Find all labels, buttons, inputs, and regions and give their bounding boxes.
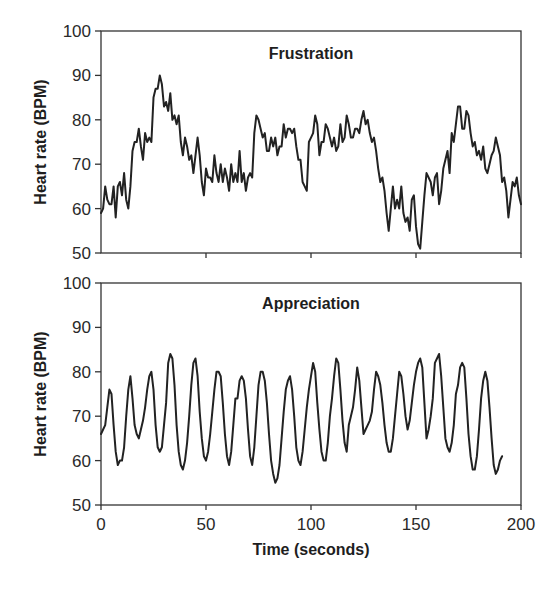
x-axis-title: Time (seconds) <box>252 541 369 558</box>
appreciation-x-ticks <box>101 505 521 510</box>
frustration-plot-frame <box>101 31 521 253</box>
ytick-label: 70 <box>72 407 91 426</box>
ytick-label: 80 <box>72 363 91 382</box>
frustration-y-axis-title: Heart rate (BPM) <box>32 79 49 204</box>
ytick-label: 60 <box>72 452 91 471</box>
appreciation-y-tick-labels: 100 90 80 70 60 50 <box>63 274 91 515</box>
appreciation-line <box>101 354 502 483</box>
xtick-label: 50 <box>197 515 216 534</box>
appreciation-y-ticks <box>95 283 101 505</box>
appreciation-plot-frame <box>101 283 521 505</box>
xtick-label: 0 <box>96 515 105 534</box>
ytick-label: 100 <box>63 274 91 293</box>
frustration-x-ticks <box>206 253 521 258</box>
ytick-label: 70 <box>72 155 91 174</box>
frustration-line <box>101 75 521 248</box>
appreciation-panel: 100 90 80 70 60 50 0 50 100 150 200 Hear… <box>32 274 535 558</box>
ytick-label: 100 <box>63 22 91 41</box>
frustration-y-ticks <box>95 31 101 253</box>
appreciation-title: Appreciation <box>262 295 360 312</box>
xtick-label: 200 <box>507 515 535 534</box>
ytick-label: 60 <box>72 200 91 219</box>
heart-rate-chart: 100 90 80 70 60 50 Heart rate (BPM) Frus… <box>0 0 554 589</box>
frustration-title: Frustration <box>269 45 353 62</box>
xtick-label: 150 <box>402 515 430 534</box>
ytick-label: 80 <box>72 111 91 130</box>
appreciation-y-axis-title: Heart rate (BPM) <box>32 331 49 456</box>
xtick-label: 100 <box>297 515 325 534</box>
frustration-panel: 100 90 80 70 60 50 Heart rate (BPM) Frus… <box>32 22 521 263</box>
ytick-label: 90 <box>72 66 91 85</box>
ytick-label: 50 <box>72 244 91 263</box>
x-tick-labels: 0 50 100 150 200 <box>96 515 535 534</box>
ytick-label: 90 <box>72 318 91 337</box>
ytick-label: 50 <box>72 496 91 515</box>
frustration-y-tick-labels: 100 90 80 70 60 50 <box>63 22 91 263</box>
